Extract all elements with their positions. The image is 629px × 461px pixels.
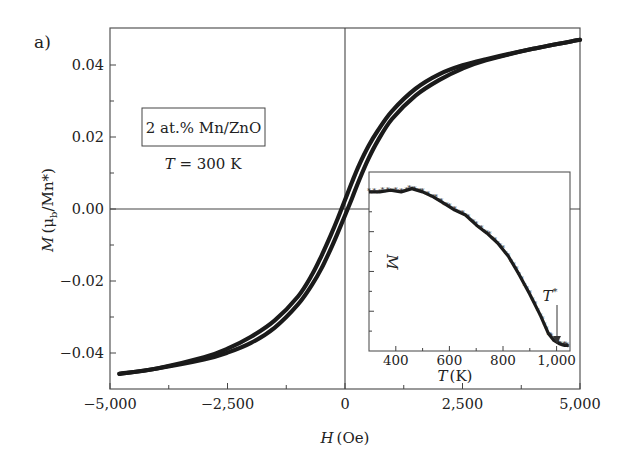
- inset-x-tick-label: 600: [437, 352, 463, 368]
- inset-x-axis-label: T(K): [438, 367, 473, 385]
- y-tick-label: 0.00: [72, 201, 104, 217]
- x-tick-label: 2,500: [442, 396, 484, 412]
- data-point-marker: *: [566, 343, 570, 352]
- x-tick-label: −5,000: [83, 396, 137, 412]
- panel-label: a): [34, 32, 51, 52]
- inset-axis-tick-labels: 4006008001,000: [383, 352, 576, 368]
- temperature-label: T = 300 K: [165, 155, 243, 173]
- figure: a) −5,000−2,50002,5005,0000.040.020.00−0…: [0, 0, 629, 461]
- inset-plot: 4006008001,000 *************************…: [367, 172, 576, 385]
- y-axis-label: M(μb/Mn*): [39, 168, 59, 253]
- x-axis-label: H(Oe): [320, 429, 370, 447]
- inset-x-tick-label: 400: [383, 352, 409, 368]
- y-tick-label: −0.04: [60, 345, 104, 361]
- y-tick-label: 0.04: [72, 57, 104, 73]
- y-tick-label: −0.02: [60, 273, 104, 289]
- x-tick-label: 0: [340, 396, 349, 412]
- inset-x-tick-label: 800: [490, 352, 516, 368]
- sample-label: 2 at.% Mn/ZnO: [146, 119, 262, 137]
- inset-y-axis-label: M: [383, 253, 401, 270]
- inset-x-tick-label: 1,000: [537, 352, 576, 368]
- x-tick-label: −2,500: [201, 396, 255, 412]
- x-tick-label: 5,000: [559, 396, 601, 412]
- y-tick-label: 0.02: [72, 129, 104, 145]
